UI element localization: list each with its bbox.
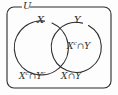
set-label-y: Y [74, 15, 81, 25]
region-label-complement-x-intersect-y: Xc∩Y [67, 42, 90, 51]
region-label-x-intersect-y: X∩Y [61, 72, 81, 81]
venn-diagram-figure: U X Y Xc∩Y Xc∩Yc X∩Y [0, 0, 118, 95]
region-second-y: Y [75, 71, 81, 81]
venn-diagram-canvas [0, 0, 118, 95]
set-label-x: X [37, 15, 44, 25]
region-label-complement-x-intersect-complement-y: Xc∩Yc [19, 72, 45, 81]
region-second-superscript-c: c [42, 70, 45, 76]
region-second-y: Y [84, 41, 90, 51]
universe-label: U [23, 1, 31, 11]
